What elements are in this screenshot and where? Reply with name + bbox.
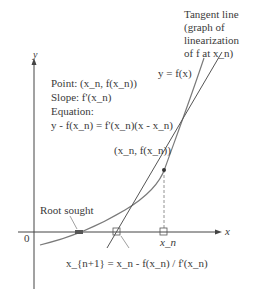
root-sought-label: Root sought <box>40 204 93 217</box>
root-leader-line <box>70 216 77 229</box>
xn-label: x_n <box>160 236 176 249</box>
tangent-line-caption: Tangent line (graph of linearization of … <box>184 8 239 60</box>
point-line: Point: (x_n, f(x_n)) <box>51 76 173 90</box>
formula-leader-line <box>121 236 129 248</box>
x-axis-arrow-icon <box>215 230 222 235</box>
tangent-caption-line-4: of f at x_n) <box>184 47 239 60</box>
tangent-caption-line-3: linearization <box>184 34 239 47</box>
tangent-point-label: (x_n, f(x_n)) <box>114 144 171 157</box>
point-info-block: Point: (x_n, f(x_n)) Slope: f'(x_n) Equa… <box>51 76 173 132</box>
root-marker <box>75 230 83 234</box>
slope-line: Slope: f'(x_n) <box>51 90 173 104</box>
y-axis-label: y <box>33 48 37 61</box>
equation-heading: Equation: <box>51 104 173 118</box>
tangent-caption-line-1: Tangent line <box>184 8 239 21</box>
x-axis-label: x <box>225 225 230 238</box>
tangent-caption-line-2: (graph of <box>184 21 239 34</box>
origin-label: 0 <box>24 232 30 245</box>
equation-line: y - f(x_n) = f'(x_n)(x - x_n) <box>51 118 173 132</box>
tangent-point <box>162 168 166 172</box>
next-iterate-formula: x_{n+1} = x_n - f(x_n) / f'(x_n) <box>66 257 208 270</box>
